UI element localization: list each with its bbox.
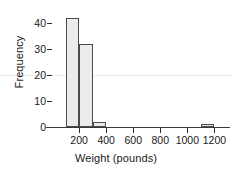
histogram-bar xyxy=(66,18,80,127)
histogram-bar xyxy=(201,124,215,127)
x-axis-tick-label: 1200 xyxy=(203,135,226,146)
plot-area xyxy=(52,10,228,127)
x-axis-tick-mark xyxy=(133,128,134,133)
x-axis-tick-label: 400 xyxy=(97,135,115,146)
x-axis-tick-label: 1000 xyxy=(176,135,199,146)
x-axis-tick-label: 200 xyxy=(70,135,88,146)
y-axis-tick-label: 40 xyxy=(24,18,46,28)
histogram-bar xyxy=(93,122,107,127)
x-axis-tick-mark xyxy=(79,128,80,133)
y-axis-tick-label: 0 xyxy=(24,122,46,132)
y-axis-tick-label: 10 xyxy=(24,96,46,106)
histogram-bar xyxy=(79,44,93,127)
x-axis-tick-mark xyxy=(214,128,215,133)
x-axis-line xyxy=(46,127,230,128)
x-axis-tick-mark xyxy=(160,128,161,133)
y-axis-tick-label: 20 xyxy=(24,70,46,80)
y-axis-tick-label: 30 xyxy=(24,44,46,54)
x-axis-tick-mark xyxy=(106,128,107,133)
x-axis-tick-label: 800 xyxy=(152,135,170,146)
x-axis-title: Weight (pounds) xyxy=(0,152,232,164)
x-axis-tick-mark xyxy=(187,128,188,133)
histogram-chart: Frequency 010203040 20040060080010001200… xyxy=(0,0,232,174)
y-axis-tick-labels: 010203040 xyxy=(20,0,46,134)
x-axis-tick-label: 600 xyxy=(124,135,142,146)
